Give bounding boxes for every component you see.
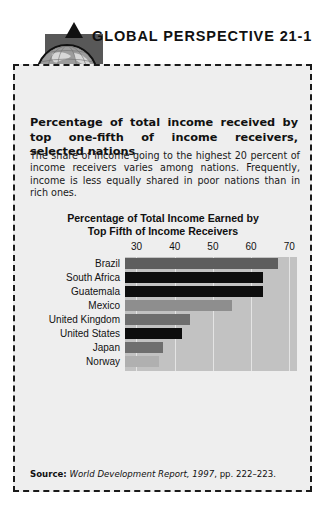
bar-category-label: South Africa: [27, 271, 120, 285]
bar-category-label: Brazil: [27, 257, 120, 271]
bar-row: Japan: [27, 341, 299, 355]
bar-chart: Percentage of Total Income Earned by Top…: [27, 212, 299, 372]
bar: [125, 286, 263, 297]
bar: [125, 300, 232, 311]
source-label: Source:: [30, 469, 67, 479]
chart-title-line-1: Percentage of Total Income Earned by: [27, 212, 299, 225]
bar: [125, 342, 163, 353]
bar-row: Norway: [27, 355, 299, 369]
header: GLOBAL PERSPECTIVE 21-1: [0, 0, 325, 72]
bar-row: South Africa: [27, 271, 299, 285]
x-tick-label: 50: [207, 241, 218, 252]
chart-title-line-2: Top Fifth of Income Receivers: [27, 225, 299, 238]
bar-row: Guatemala: [27, 285, 299, 299]
page-title: GLOBAL PERSPECTIVE 21-1: [92, 28, 312, 44]
body-paragraph: The share of income going to the highest…: [30, 150, 300, 200]
bar-row: Brazil: [27, 257, 299, 271]
bar: [125, 314, 190, 325]
bar-category-label: Norway: [27, 355, 120, 369]
x-axis-ticks: 3040506070: [125, 241, 295, 255]
bar-row: United Kingdom: [27, 313, 299, 327]
bar-rows: BrazilSouth AfricaGuatemalaMexicoUnited …: [27, 257, 299, 371]
content-inner: Percentage of total income received by t…: [15, 66, 310, 490]
bar-category-label: Guatemala: [27, 285, 120, 299]
bar-category-label: United States: [27, 327, 120, 341]
source-pages: , pp. 222–223.: [214, 469, 276, 479]
x-tick-label: 70: [284, 241, 295, 252]
bar: [125, 272, 263, 283]
source-publication: World Development Report, 1997: [70, 469, 215, 479]
bar: [125, 356, 159, 367]
chart-title: Percentage of Total Income Earned by Top…: [27, 212, 299, 238]
bar: [125, 258, 278, 269]
x-tick-label: 30: [131, 241, 142, 252]
x-tick-label: 60: [246, 241, 257, 252]
bar-category-label: Mexico: [27, 299, 120, 313]
bar-category-label: United Kingdom: [27, 313, 120, 327]
bar-row: Mexico: [27, 299, 299, 313]
global-perspective-box: GLOBAL PERSPECTIVE 21-1 Percentage of to…: [0, 0, 325, 508]
bar-category-label: Japan: [27, 341, 120, 355]
source-line: Source: World Development Report, 1997, …: [30, 469, 302, 480]
arrow-up-icon: [65, 22, 83, 38]
x-tick-label: 40: [169, 241, 180, 252]
bar-row: United States: [27, 327, 299, 341]
bar: [125, 328, 182, 339]
content-box: Percentage of total income received by t…: [13, 64, 312, 492]
